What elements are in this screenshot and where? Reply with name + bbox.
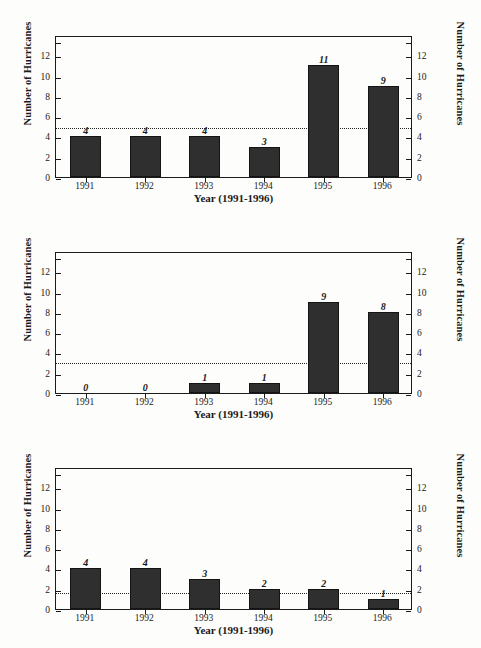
y-tick-label: 8 [417,309,457,319]
y-tick-label: 8 [10,93,50,103]
plot-area: 002244668810101212001198 [55,252,412,394]
y-tick-label: 0 [417,174,457,184]
y-tick-mark [56,98,61,99]
bar [249,383,280,393]
x-tick-label: 1994 [243,181,283,191]
y-tick-mark-minor [56,43,61,44]
x-tick-label: 1993 [184,397,224,407]
bar [130,136,161,177]
x-tick-label: 1995 [303,181,343,191]
x-tick-label: 1992 [124,181,164,191]
y-tick-label: 8 [10,525,50,535]
y-tick-mark [56,489,61,490]
y-tick-label: 0 [10,390,50,400]
y-tick-label: 10 [10,73,50,83]
x-tick-label: 1991 [65,181,105,191]
bar-value-label: 0 [125,382,165,393]
y-tick-mark [56,611,61,612]
y-tick-mark-minor [406,259,411,260]
y-tick-mark [406,314,411,315]
x-axis-label: Year (1991-1996) [55,408,412,420]
y-tick-label: 10 [10,289,50,299]
bar-value-label: 4 [66,557,106,568]
x-tick-label: 1991 [65,613,105,623]
bar [368,86,399,177]
y-tick-label: 8 [417,525,457,535]
y-tick-mark [56,138,61,139]
y-tick-label: 0 [10,174,50,184]
bar-value-label: 1 [185,372,225,383]
y-tick-mark [56,159,61,160]
bar-value-label: 8 [363,301,403,312]
mean-reference-line [56,593,411,594]
bar-value-label: 0 [66,382,106,393]
bar-value-label: 2 [244,578,284,589]
y-tick-label: 6 [10,545,50,555]
y-tick-mark [56,179,61,180]
y-tick-label: 6 [10,113,50,123]
y-tick-mark [56,294,61,295]
y-tick-mark [56,354,61,355]
chart-panel: Number of HurricanesNumber of Hurricanes… [0,432,481,648]
x-tick-label: 1991 [65,397,105,407]
y-tick-mark [406,78,411,79]
y-tick-mark [56,57,61,58]
bar [368,599,399,609]
y-tick-label: 2 [10,154,50,164]
bar [249,589,280,609]
y-tick-mark [56,550,61,551]
bar [308,65,339,177]
bar-value-label: 3 [185,568,225,579]
y-tick-mark [56,591,61,592]
y-tick-label: 0 [10,606,50,616]
x-axis-label: Year (1991-1996) [55,624,412,636]
y-tick-label: 10 [417,505,457,515]
y-tick-label: 4 [417,565,457,575]
y-tick-label: 6 [417,545,457,555]
y-tick-mark [406,591,411,592]
y-tick-mark [406,334,411,335]
x-tick-label: 1992 [124,613,164,623]
y-tick-mark [56,118,61,119]
x-tick-label: 1993 [184,613,224,623]
bar-value-label: 4 [66,125,106,136]
y-tick-mark [406,98,411,99]
y-tick-mark [406,550,411,551]
y-tick-label: 10 [417,73,457,83]
y-tick-label: 2 [417,154,457,164]
bar [70,568,101,609]
y-tick-label: 2 [10,370,50,380]
y-tick-label: 6 [417,329,457,339]
chart-panel: Number of HurricanesNumber of Hurricanes… [0,216,481,432]
y-tick-mark [406,118,411,119]
y-tick-mark [56,375,61,376]
y-tick-mark [56,570,61,571]
y-tick-label: 10 [10,505,50,515]
bar [189,383,220,393]
bar [368,312,399,393]
y-tick-label: 4 [417,349,457,359]
y-tick-mark [406,159,411,160]
y-tick-label: 12 [10,268,50,278]
y-tick-mark-minor [406,475,411,476]
bar-value-label: 3 [244,136,284,147]
bar-value-label: 9 [304,291,344,302]
bar [308,589,339,609]
y-tick-mark [56,334,61,335]
bar-value-label: 4 [185,125,225,136]
y-tick-mark [56,273,61,274]
bar-value-label: 1 [363,588,403,599]
y-tick-mark-minor [56,259,61,260]
bar [130,568,161,609]
y-tick-label: 4 [417,133,457,143]
y-tick-mark [56,510,61,511]
x-tick-label: 1993 [184,181,224,191]
bar-value-label: 11 [304,54,344,65]
y-tick-label: 12 [417,484,457,494]
y-tick-mark [56,78,61,79]
bar-value-label: 1 [244,372,284,383]
x-tick-label: 1995 [303,613,343,623]
y-tick-label: 4 [10,349,50,359]
y-tick-label: 12 [417,268,457,278]
y-tick-label: 12 [10,52,50,62]
